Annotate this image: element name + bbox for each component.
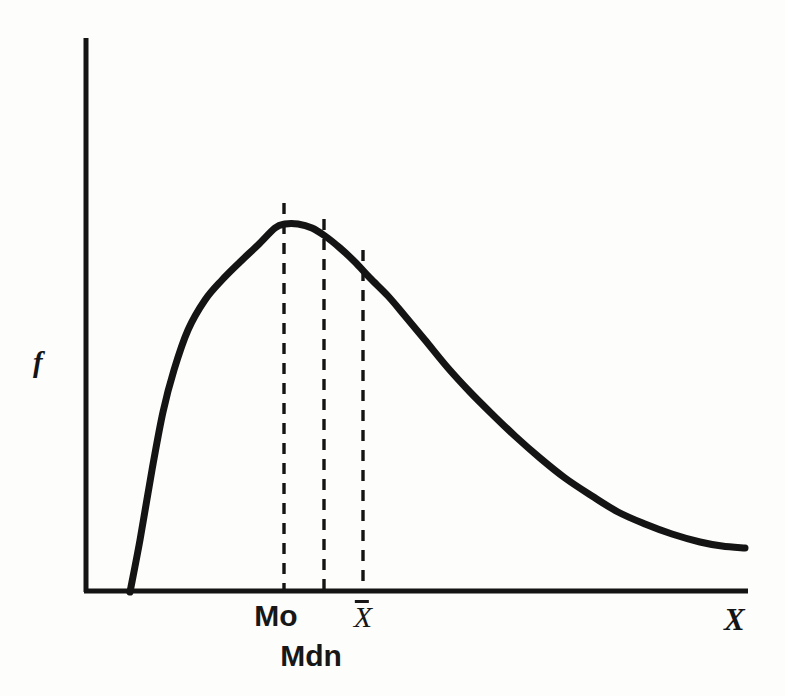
distribution-plot [0, 0, 785, 696]
mean-symbol: X [354, 600, 372, 632]
y-axis-label: f [33, 348, 43, 377]
mode-tick-label: Mo [254, 601, 297, 631]
frequency-curve [130, 223, 745, 592]
mean-tick-label: X [354, 600, 372, 632]
skewed-distribution-figure: f X Mo X Mdn [0, 0, 785, 696]
median-tick-label: Mdn [280, 641, 342, 671]
x-axis-label: X [724, 604, 745, 635]
